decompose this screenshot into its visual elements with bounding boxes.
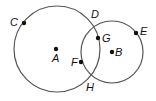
label-A: A [51, 52, 59, 64]
label-C: C [10, 16, 18, 28]
point-F-dot [79, 60, 83, 64]
label-E: E [140, 25, 148, 37]
label-G: G [102, 32, 111, 44]
label-F: F [71, 56, 79, 68]
label-D: D [91, 8, 99, 20]
geometry-diagram: A B C D E F G H [0, 0, 156, 101]
point-E-dot [134, 31, 138, 35]
point-A-dot [54, 47, 58, 51]
label-B: B [115, 46, 122, 58]
point-G-dot [96, 36, 100, 40]
point-B-dot [110, 50, 114, 54]
label-H: H [86, 81, 94, 93]
point-C-dot [22, 21, 26, 25]
